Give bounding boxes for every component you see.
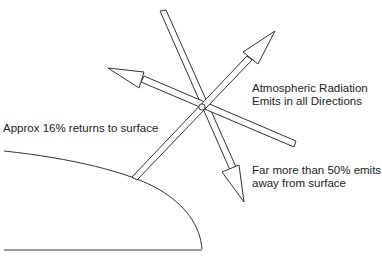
left-arrow-head — [108, 68, 144, 88]
returns-to-surface-label: Approx 16% returns to surface — [3, 122, 158, 135]
atmospheric-radiation-label: Atmospheric Radiation Emits in all Direc… — [252, 82, 368, 108]
down-arrow-head — [222, 165, 244, 202]
atmospheric-radiation-diagram: Approx 16% returns to surface Atmospheri… — [0, 0, 382, 259]
atmospheric-label-line1: Atmospheric Radiation — [252, 82, 368, 95]
emits-away-label: Far more than 50% emits away from surfac… — [252, 164, 381, 190]
earth-surface-curve — [4, 151, 202, 249]
emission-point-icon — [199, 104, 205, 110]
away-label-line2: away from surface — [252, 177, 381, 190]
atmospheric-label-line2: Emits in all Directions — [252, 95, 368, 108]
away-label-line1: Far more than 50% emits — [252, 164, 381, 177]
returns-label-text: Approx 16% returns to surface — [3, 122, 158, 135]
